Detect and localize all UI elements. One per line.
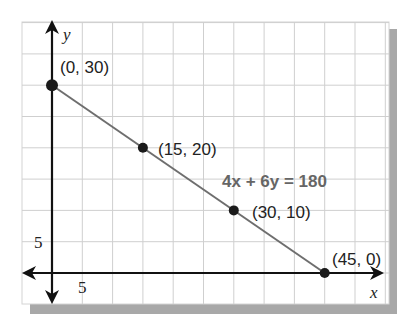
y-axis-label: y — [61, 25, 71, 44]
data-point — [46, 79, 58, 91]
chart: y x 5 5 (0, 30) (15, 20) (30, 10) (45, 0… — [0, 0, 411, 329]
x-axis-label: x — [369, 283, 378, 302]
frame-shadow-bottom — [30, 304, 396, 314]
x-tick-label: 5 — [78, 278, 87, 297]
point-label-30-10: (30, 10) — [252, 203, 311, 222]
data-point — [229, 205, 239, 215]
data-point — [320, 268, 330, 278]
point-label-15-20: (15, 20) — [158, 140, 217, 159]
point-label-0-30: (0, 30) — [60, 58, 109, 77]
point-label-45-0: (45, 0) — [332, 250, 381, 269]
equation-label: 4x + 6y = 180 — [222, 172, 327, 191]
data-point — [138, 143, 148, 153]
frame-shadow-right — [389, 29, 397, 314]
y-tick-label: 5 — [34, 233, 43, 252]
